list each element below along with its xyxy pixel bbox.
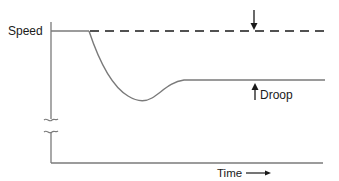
droop-down-arrow-icon <box>251 23 258 30</box>
axis-break-icon <box>44 131 58 133</box>
x-axis-label: Time <box>217 168 242 180</box>
time-arrow-icon <box>265 171 271 176</box>
axis-break-icon <box>44 119 58 121</box>
droop-up-arrow-icon <box>252 83 259 90</box>
y-axis-label: Speed <box>8 25 43 37</box>
droop-annotation: Droop <box>260 89 293 101</box>
